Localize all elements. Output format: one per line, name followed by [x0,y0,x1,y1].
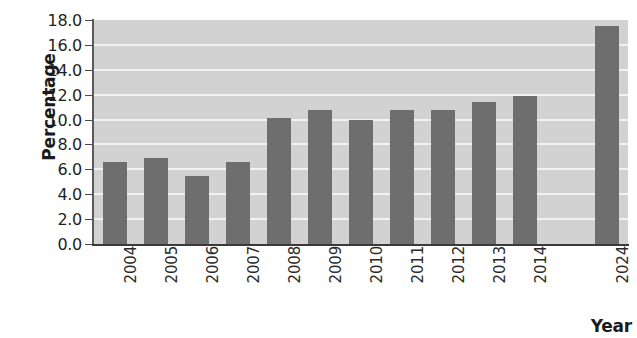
x-axis-tick-label: 2011 [409,246,427,283]
y-axis-tick-label: 10.0 [48,110,82,129]
x-axis-tick-label: 2014 [532,246,550,283]
bar [431,110,455,244]
x-axis-tick-label: 2005 [163,246,181,283]
y-axis-tick-mark [85,194,92,195]
y-axis-tick-mark [85,169,92,170]
bar [185,176,209,244]
y-axis-tick-mark [85,144,92,145]
bar [472,102,496,244]
bar [267,118,291,244]
y-axis-tick-label: 18.0 [48,11,82,30]
gridline [94,44,628,46]
plot-area [94,20,628,244]
x-axis-tick-label: 2010 [368,246,386,283]
y-axis-tick-label: 16.0 [48,35,82,54]
y-axis-tick-label: 4.0 [57,185,82,204]
y-axis-tick-mark [85,70,92,71]
y-axis-tick-mark [85,20,92,21]
y-axis-tick-label: 0.0 [57,235,82,254]
y-axis-tick-label: 6.0 [57,160,82,179]
x-axis-tick-label: 2012 [450,246,468,283]
y-axis-tick-label: 12.0 [48,85,82,104]
bar [144,158,168,244]
x-axis-tick-label: 2013 [491,246,509,283]
bar-chart: Percentage 0.02.04.06.08.010.012.014.016… [0,0,637,338]
y-axis-tick-mark [85,219,92,220]
y-axis-tick-mark [85,244,92,245]
bar [226,162,250,244]
bar [103,162,127,244]
x-axis-tick-label: 2008 [286,246,304,283]
y-axis-tick-mark [85,120,92,121]
bar [349,120,373,244]
x-axis-tick-labels: 2004200520062007200820092010201120122013… [94,246,628,308]
gridline [94,94,628,96]
y-axis-tick-labels: 0.02.04.06.08.010.012.014.016.018.0 [14,20,82,244]
y-axis-tick-label: 2.0 [57,210,82,229]
bar [390,110,414,244]
x-axis-tick-label: 2009 [327,246,345,283]
x-axis-tick-label: 2004 [122,246,140,283]
y-axis-tick-mark [85,95,92,96]
x-axis-tick-label: 2007 [245,246,263,283]
y-axis-tick-label: 14.0 [48,60,82,79]
bar [595,26,619,244]
bar [308,110,332,244]
gridline [94,69,628,71]
y-axis-tick-mark [85,45,92,46]
x-axis-tick-label: 2006 [204,246,222,283]
bar [513,96,537,244]
x-axis-tick-label: 2024 [614,246,632,283]
y-axis-tick-label: 8.0 [57,135,82,154]
x-axis-title: Year [591,316,632,336]
